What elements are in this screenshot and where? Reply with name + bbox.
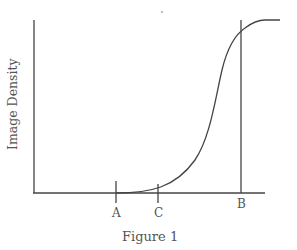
marker-a-label: A	[112, 207, 121, 219]
y-axis-label: Image Density	[5, 58, 20, 150]
figure-caption: Figure 1	[122, 229, 178, 244]
figure-canvas	[0, 0, 297, 250]
marker-b-label: B	[237, 198, 246, 210]
marker-c-label: C	[154, 207, 163, 219]
speck	[161, 11, 163, 13]
density-curve	[116, 20, 280, 193]
